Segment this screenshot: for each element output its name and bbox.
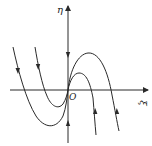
eta-axis-label: η	[57, 5, 63, 15]
phase-portrait-figure: η ξ O	[0, 0, 152, 146]
trajectory-inner	[35, 47, 96, 135]
arrow-up-eta-axis-icon	[66, 120, 70, 126]
trajectory-outer	[13, 47, 119, 131]
xi-axis-label: ξ	[138, 100, 148, 106]
phase-portrait-svg	[0, 0, 152, 146]
arrow-down-eta-axis-icon	[66, 52, 70, 58]
origin-label: O	[69, 93, 76, 102]
